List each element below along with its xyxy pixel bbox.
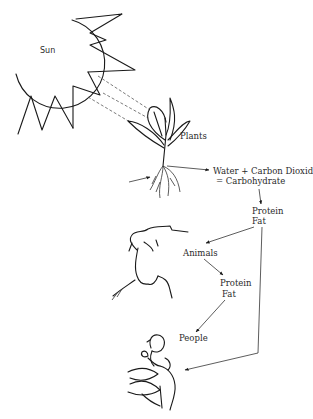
carbohydrate-label: = Carbohydrate [216,176,285,186]
plant-fat-label: Fat [252,216,266,226]
sunlight-rays [88,76,150,122]
animals-label: Animals [183,248,218,258]
carbohydrate-to-nutrients-arrow [259,189,261,204]
plant-protein-label: Protein [252,206,284,216]
animal-fat-label: Fat [222,289,236,299]
animals-to-nutrients-arrow [204,259,223,275]
people-label: People [179,333,208,343]
nutrients-to-animals-arrow [206,227,254,243]
cow-icon [112,226,188,300]
sun-icon [16,14,135,134]
plant-to-photosynthesis-arrow [167,166,209,170]
soil-arrow [129,177,150,182]
plants-label: Plants [180,131,207,141]
animal-protein-label: Protein [220,278,252,288]
water-carbon-dioxide-label: Water + Carbon Dioxide [213,166,313,176]
plant-icon [128,98,190,198]
animal-nutrients-to-people-arrow [196,300,225,332]
people-icon [128,335,175,410]
sun-label: Sun [40,46,55,56]
